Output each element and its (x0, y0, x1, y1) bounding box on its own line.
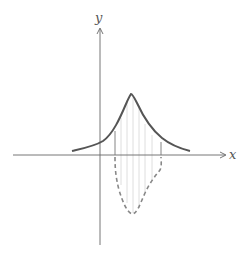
hatch-lines (121, 96, 152, 213)
x-axis-label: x (229, 147, 237, 162)
bell-curve (72, 94, 190, 151)
diagram-canvas: x y (0, 0, 248, 258)
dashed-curve (115, 157, 161, 214)
y-axis (97, 28, 103, 245)
x-axis (13, 152, 226, 158)
y-axis-label: y (94, 10, 103, 25)
